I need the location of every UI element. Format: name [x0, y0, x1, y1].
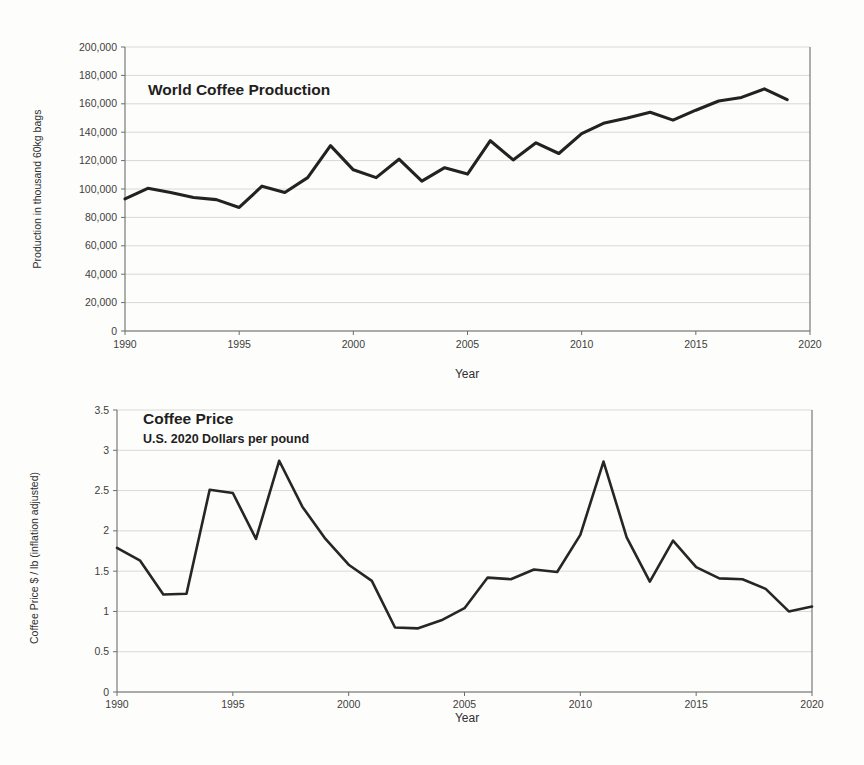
price-chart-subtitle: U.S. 2020 Dollars per pound — [143, 432, 309, 446]
y-tick-label: 3.5 — [94, 404, 109, 416]
y-tick-label: 0.5 — [94, 645, 109, 657]
x-tick-label: 2000 — [337, 698, 361, 710]
scanned-figure-page: 020,00040,00060,00080,000100,000120,0001… — [0, 0, 864, 765]
x-tick-label: 1990 — [113, 338, 137, 350]
y-tick-label: 0 — [111, 325, 117, 337]
production-data-line — [125, 89, 787, 208]
production-y-axis-title: Production in thousand 60kg bags — [31, 110, 43, 269]
production-chart-title: World Coffee Production — [148, 81, 330, 98]
y-tick-label: 3 — [103, 444, 109, 456]
y-tick-label: 200,000 — [79, 41, 117, 53]
x-tick-label: 2010 — [569, 698, 593, 710]
y-tick-label: 40,000 — [85, 268, 117, 280]
y-tick-label: 2 — [103, 524, 109, 536]
x-tick-label: 2005 — [456, 338, 480, 350]
production-x-tick-labels: 1990199520002005201020152020 — [113, 338, 822, 350]
production-chart-canvas: 020,00040,00060,00080,000100,000120,0001… — [0, 0, 864, 395]
chart-coffee-price: 00.511.522.533.5 19901995200020052010201… — [0, 395, 864, 765]
price-tick-marks — [113, 410, 812, 696]
price-x-axis-title: Year — [455, 711, 479, 725]
y-tick-label: 0 — [103, 686, 109, 698]
x-tick-label: 2020 — [800, 698, 824, 710]
y-tick-label: 2.5 — [94, 484, 109, 496]
chart-world-coffee-production: 020,00040,00060,00080,000100,000120,0001… — [0, 0, 864, 395]
price-x-tick-labels: 1990199520002005201020152020 — [105, 698, 824, 710]
x-tick-label: 1995 — [227, 338, 251, 350]
x-tick-label: 2005 — [453, 698, 477, 710]
y-tick-label: 180,000 — [79, 69, 117, 81]
y-tick-label: 1 — [103, 605, 109, 617]
x-tick-label: 2015 — [684, 698, 708, 710]
price-y-axis-title: Coffee Price $ / lb (inflation adjusted) — [28, 472, 40, 644]
y-tick-label: 20,000 — [85, 296, 117, 308]
x-tick-label: 1990 — [105, 698, 129, 710]
y-tick-label: 1.5 — [94, 565, 109, 577]
production-y-tick-labels: 020,00040,00060,00080,000100,000120,0001… — [79, 41, 117, 337]
price-y-tick-labels: 00.511.522.533.5 — [94, 404, 109, 698]
y-tick-label: 100,000 — [79, 183, 117, 195]
x-tick-label: 2015 — [684, 338, 708, 350]
x-tick-label: 2000 — [342, 338, 366, 350]
y-tick-label: 80,000 — [85, 211, 117, 223]
y-tick-label: 140,000 — [79, 126, 117, 138]
y-tick-label: 160,000 — [79, 97, 117, 109]
price-data-line — [117, 461, 812, 629]
price-gridlines — [117, 410, 812, 692]
x-tick-label: 2020 — [798, 338, 822, 350]
x-tick-label: 2010 — [570, 338, 594, 350]
price-chart-canvas: 00.511.522.533.5 19901995200020052010201… — [0, 395, 864, 765]
x-tick-label: 1995 — [221, 698, 245, 710]
y-tick-label: 60,000 — [85, 239, 117, 251]
price-chart-title: Coffee Price — [143, 410, 234, 427]
y-tick-label: 120,000 — [79, 154, 117, 166]
production-x-axis-title: Year — [455, 367, 479, 381]
